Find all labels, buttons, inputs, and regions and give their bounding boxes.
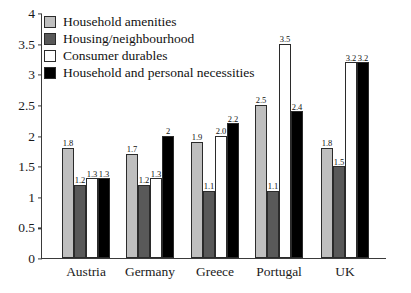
bar: 1.1 bbox=[267, 191, 279, 258]
bar-value-label: 3.5 bbox=[280, 35, 291, 44]
y-axis-tick-mark bbox=[38, 13, 42, 14]
y-axis-tick-mark bbox=[38, 44, 42, 45]
bar: 1.2 bbox=[138, 185, 150, 259]
bar-value-label: 1.8 bbox=[63, 139, 74, 148]
y-axis-tick-label: 4 bbox=[1, 7, 35, 21]
x-axis-category-label: Portugal bbox=[256, 265, 302, 279]
y-axis-tick-mark bbox=[38, 228, 42, 229]
bar: 3.5 bbox=[279, 44, 291, 258]
y-axis-tick-mark bbox=[38, 105, 42, 106]
y-axis-tick-label: 0 bbox=[1, 252, 35, 266]
y-axis-tick-label: 3.5 bbox=[1, 38, 35, 52]
bar: 1.8 bbox=[321, 148, 333, 258]
bar-group: 1.91.12.02.2Greece bbox=[191, 14, 239, 258]
bar-value-label: 1.8 bbox=[322, 139, 333, 148]
bar: 1.3 bbox=[86, 178, 98, 258]
y-axis-tick-label: 1 bbox=[1, 191, 35, 205]
y-axis-tick-label: 0.5 bbox=[1, 222, 35, 236]
y-axis-tick-label: 3 bbox=[1, 69, 35, 83]
bar: 2.2 bbox=[227, 123, 239, 258]
bar: 1.8 bbox=[62, 148, 74, 258]
bar-group: 1.81.21.31.3Austria bbox=[62, 14, 110, 258]
bar-value-label: 2 bbox=[166, 127, 170, 136]
bar-group: 1.71.21.32Germany bbox=[126, 14, 174, 258]
bar-value-label: 1.3 bbox=[87, 170, 98, 179]
bar-value-label: 1.2 bbox=[75, 176, 86, 185]
bar: 1.7 bbox=[126, 154, 138, 258]
bar-value-label: 1.9 bbox=[192, 133, 203, 142]
x-axis-category-label: Austria bbox=[66, 265, 106, 279]
bar-value-label: 3.2 bbox=[358, 54, 369, 63]
bar-value-label: 1.2 bbox=[139, 176, 150, 185]
y-axis-tick-mark bbox=[38, 258, 42, 259]
y-axis-tick-label: 2 bbox=[1, 130, 35, 144]
bar: 3.2 bbox=[345, 62, 357, 258]
bar-value-label: 1.7 bbox=[127, 145, 138, 154]
bar: 1.1 bbox=[203, 191, 215, 258]
bar-value-label: 1.1 bbox=[204, 182, 215, 191]
bar-group: 2.51.13.52.4Portugal bbox=[255, 14, 303, 258]
plot-area: 00.511.522.533.541.81.21.31.3Austria1.71… bbox=[41, 14, 386, 259]
bar: 1.3 bbox=[150, 178, 162, 258]
bar: 1.3 bbox=[98, 178, 110, 258]
bar-value-label: 2.5 bbox=[256, 96, 267, 105]
bar-group: 1.81.53.23.2UK bbox=[321, 14, 369, 258]
bar-value-label: 1.3 bbox=[151, 170, 162, 179]
bar: 1.5 bbox=[333, 166, 345, 258]
bar: 2.5 bbox=[255, 105, 267, 258]
x-axis-category-label: UK bbox=[335, 265, 355, 279]
y-axis-tick-label: 1.5 bbox=[1, 160, 35, 174]
bar-value-label: 1.3 bbox=[99, 170, 110, 179]
y-axis-tick-mark bbox=[38, 75, 42, 76]
bar: 3.2 bbox=[357, 62, 369, 258]
bar-value-label: 1.5 bbox=[334, 158, 345, 167]
y-axis-tick-mark bbox=[38, 136, 42, 137]
bar: 2.4 bbox=[291, 111, 303, 258]
y-axis-tick-mark bbox=[38, 197, 42, 198]
bar: 2.0 bbox=[215, 136, 227, 259]
bar-value-label: 1.1 bbox=[268, 182, 279, 191]
y-axis-tick-label: 2.5 bbox=[1, 99, 35, 113]
x-axis-category-label: Greece bbox=[196, 265, 234, 279]
bar-chart: Household amenitiesHousing/neighbourhood… bbox=[0, 0, 411, 293]
y-axis-tick-mark bbox=[38, 167, 42, 168]
bar-value-label: 2.2 bbox=[228, 115, 239, 124]
bar: 1.9 bbox=[191, 142, 203, 258]
bar: 2 bbox=[162, 136, 174, 259]
x-axis-category-label: Germany bbox=[125, 265, 175, 279]
bar-value-label: 2.4 bbox=[292, 103, 303, 112]
bar-value-label: 3.2 bbox=[346, 54, 357, 63]
bar-value-label: 2.0 bbox=[216, 127, 227, 136]
bar: 1.2 bbox=[74, 185, 86, 259]
